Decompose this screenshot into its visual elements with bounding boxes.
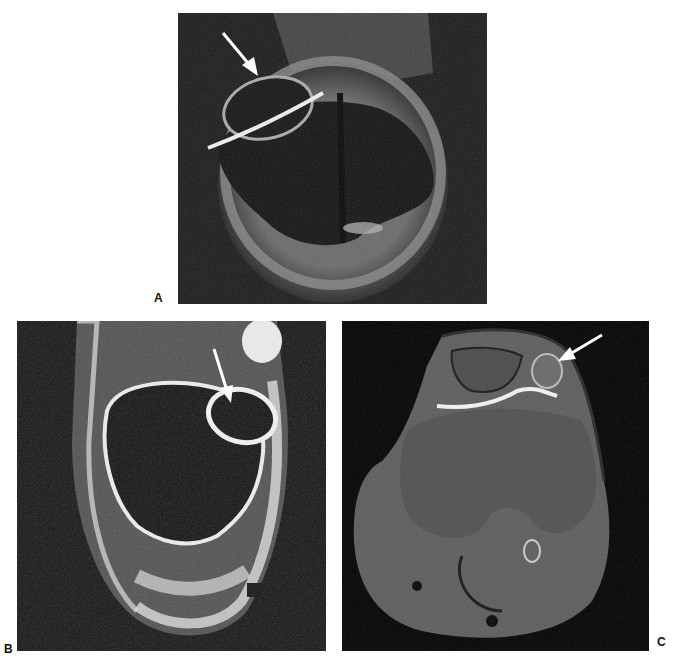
mri-panel-a [178,13,487,304]
mri-panel-b [17,321,326,651]
panel-label-c: C [657,636,666,648]
mri-image-c [342,321,649,651]
panel-label-b: B [4,643,13,655]
mri-image-a [178,13,487,304]
mri-panel-c [342,321,649,651]
panel-label-a: A [154,292,163,304]
mri-image-b [17,321,326,651]
